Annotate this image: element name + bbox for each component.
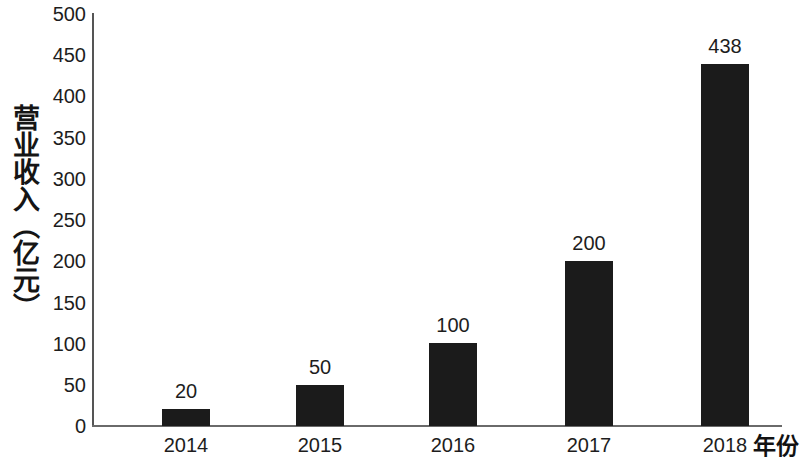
y-axis-title: 营业收入（亿元）: [2, 104, 36, 320]
bar-value-label: 50: [309, 357, 331, 377]
bar-value-label: 100: [436, 315, 469, 335]
x-tick-label: 2016: [405, 433, 501, 457]
y-tick-label: 500: [36, 4, 86, 24]
bar[interactable]: [701, 64, 749, 426]
x-axis-tick-labels: 2014 2015 2016 2017 2018: [94, 433, 782, 463]
y-tick-label: 350: [36, 128, 86, 148]
x-tick-label: 2017: [541, 433, 637, 457]
y-tick-label: 0: [36, 416, 86, 436]
bar-group: 100: [405, 13, 501, 426]
y-tick-label: 300: [36, 169, 86, 189]
bar[interactable]: [296, 385, 344, 426]
bar-value-label: 20: [175, 381, 197, 401]
y-tick-label: 400: [36, 86, 86, 106]
bar[interactable]: [565, 261, 613, 426]
y-tick-label: 150: [36, 293, 86, 313]
bar-group: 200: [541, 13, 637, 426]
bar-group: 50: [272, 13, 368, 426]
bar-value-label: 438: [708, 36, 741, 56]
bar-group: 438: [677, 13, 773, 426]
bar-value-label: 200: [572, 233, 605, 253]
y-tick-label: 50: [36, 375, 86, 395]
y-tick-label: 100: [36, 334, 86, 354]
bar[interactable]: [162, 409, 210, 426]
bar[interactable]: [429, 343, 477, 426]
bar-group: 20: [138, 13, 234, 426]
y-tick-label: 250: [36, 210, 86, 230]
y-tick-label: 450: [36, 45, 86, 65]
y-axis-tick-labels: 500 450 400 350 300 250 200 150 100 50 0: [36, 0, 86, 464]
bar-chart: 营业收入（亿元） 500 450 400 350 300 250 200 150…: [0, 0, 803, 464]
x-tick-label: 2014: [138, 433, 234, 457]
x-axis-title: 年份: [753, 433, 799, 461]
x-tick-label: 2015: [272, 433, 368, 457]
plot-area: 20 50 100 200 438: [94, 13, 782, 426]
y-tick-label: 200: [36, 251, 86, 271]
